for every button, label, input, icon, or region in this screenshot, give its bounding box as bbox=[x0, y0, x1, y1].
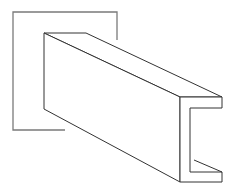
c-channel-beam bbox=[44, 33, 222, 182]
c-channel-drawing bbox=[0, 0, 234, 194]
diagram-canvas bbox=[0, 0, 234, 194]
inner-lip-edge bbox=[194, 160, 222, 172]
